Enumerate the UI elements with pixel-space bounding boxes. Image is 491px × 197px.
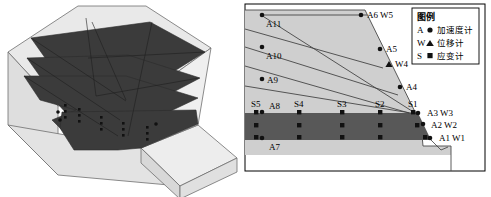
square-marker bbox=[423, 135, 427, 139]
circle-marker bbox=[398, 85, 403, 90]
circle-marker bbox=[260, 45, 265, 50]
legend-label-a: 加速度计 bbox=[437, 25, 473, 35]
label-a3w3: A3 W3 bbox=[427, 108, 454, 118]
circle-marker bbox=[378, 47, 383, 52]
label-s3: S3 bbox=[337, 99, 347, 109]
square-marker bbox=[415, 123, 419, 127]
label-a4: A4 bbox=[406, 82, 417, 92]
circle-marker bbox=[260, 136, 265, 141]
square-marker bbox=[340, 123, 344, 127]
label-a11: A11 bbox=[266, 19, 281, 29]
label-s5: S5 bbox=[251, 99, 261, 109]
square-marker bbox=[254, 135, 258, 139]
square-marker bbox=[297, 123, 301, 127]
label-a2w2: A2 W2 bbox=[431, 120, 457, 130]
circle-marker bbox=[260, 77, 265, 82]
square-marker bbox=[297, 135, 301, 139]
square-marker bbox=[254, 123, 258, 127]
square-marker bbox=[254, 110, 258, 114]
square-marker bbox=[411, 110, 415, 114]
sensor-dot-round bbox=[154, 122, 158, 126]
label-a7: A7 bbox=[269, 142, 280, 152]
legend-box: 图例 A 加速度计 W 位移计 S 应变计 bbox=[412, 8, 479, 64]
label-a5: A5 bbox=[386, 44, 397, 54]
circle-marker bbox=[359, 13, 364, 18]
label-a10: A10 bbox=[266, 51, 282, 61]
label-w4: W4 bbox=[395, 59, 408, 69]
label-a1w1: A1 W1 bbox=[439, 133, 465, 143]
sensor-dot-round bbox=[58, 118, 62, 122]
label-a9: A9 bbox=[267, 75, 278, 85]
square-marker bbox=[340, 110, 344, 114]
legend-title: 图例 bbox=[417, 11, 435, 22]
sensor-dot-column bbox=[122, 122, 125, 137]
right-cross-section-panel: A11 A10 A9 A6 W5 A5 W4 A4 S5 A8 S4 S3 S2… bbox=[243, 0, 491, 197]
square-marker bbox=[378, 123, 382, 127]
cross-section-svg: A11 A10 A9 A6 W5 A5 W4 A4 S5 A8 S4 S3 S2… bbox=[243, 0, 491, 197]
circle-marker bbox=[421, 122, 426, 127]
model-3d-svg bbox=[0, 0, 243, 197]
circle-marker bbox=[428, 136, 433, 141]
sensor-dot-column bbox=[146, 126, 149, 141]
circle-marker bbox=[260, 13, 265, 18]
circle-marker bbox=[416, 111, 421, 116]
legend-key-s: S bbox=[417, 51, 422, 61]
sensor-dot-column bbox=[100, 116, 103, 131]
weak-layer-band bbox=[245, 113, 431, 140]
label-s1: S1 bbox=[408, 99, 418, 109]
legend-circle-marker bbox=[427, 27, 432, 32]
square-marker bbox=[340, 135, 344, 139]
legend-label-s: 应变计 bbox=[437, 51, 464, 61]
sensor-dot-round bbox=[56, 110, 60, 114]
square-marker bbox=[378, 135, 382, 139]
square-marker bbox=[378, 110, 382, 114]
label-s2: S2 bbox=[375, 99, 385, 109]
label-a6w5: A6 W5 bbox=[367, 10, 394, 20]
sensor-dot-column bbox=[78, 108, 81, 123]
sensor-dot-column bbox=[64, 104, 67, 119]
label-a8: A8 bbox=[269, 101, 280, 111]
legend-key-w: W bbox=[417, 38, 426, 48]
label-s4: S4 bbox=[294, 99, 304, 109]
legend-key-a: A bbox=[417, 25, 424, 35]
legend-square-marker bbox=[427, 53, 432, 58]
square-marker bbox=[297, 110, 301, 114]
left-3d-model-panel bbox=[0, 0, 243, 197]
circle-marker bbox=[260, 110, 265, 115]
legend-label-w: 位移计 bbox=[437, 38, 464, 48]
